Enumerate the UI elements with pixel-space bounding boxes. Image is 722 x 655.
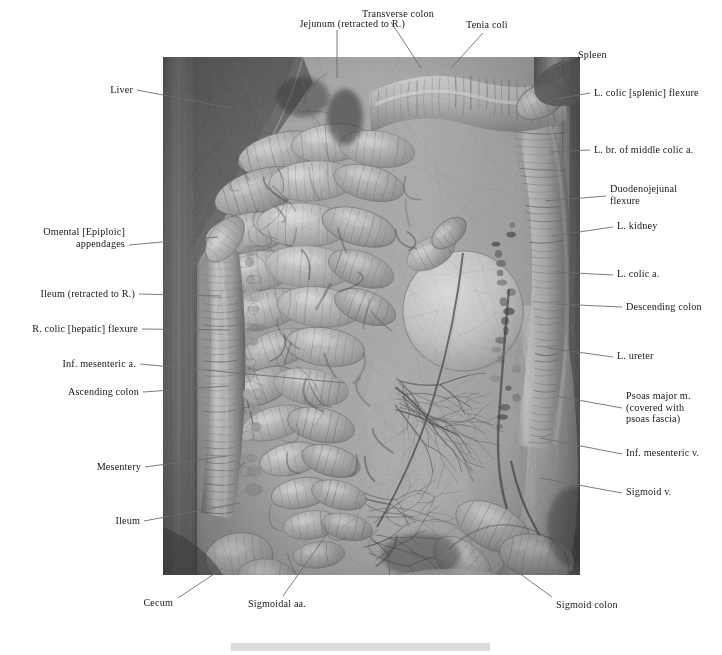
anatomical-photograph bbox=[163, 57, 580, 575]
label-l-colic-splenic-flexure: L. colic [splenic] flexure bbox=[594, 87, 722, 99]
footer-bar bbox=[231, 643, 490, 651]
label-l-br-middle-colic-a: L. br. of middle colic a. bbox=[594, 144, 722, 156]
label-transverse-colon: Transverse colon bbox=[362, 8, 482, 20]
label-inf-mesenteric-a: Inf. mesenteric a. bbox=[36, 358, 136, 370]
label-duodenojejunal-flexure: Duodenojejunal flexure bbox=[610, 183, 720, 206]
figure-canvas: Jejunum (retracted to R.)Transverse colo… bbox=[0, 0, 722, 655]
label-descending-colon: Descending colon bbox=[626, 301, 722, 313]
label-jejunum: Jejunum (retracted to R.) bbox=[237, 18, 405, 30]
label-r-colic-hepatic-flexure: R. colic [hepatic] flexure bbox=[10, 323, 138, 335]
label-cecum: Cecum bbox=[108, 597, 173, 609]
label-mesentery: Mesentery bbox=[66, 461, 141, 473]
label-sigmoid-v: Sigmoid v. bbox=[626, 486, 716, 498]
label-ileum-retracted: Ileum (retracted to R.) bbox=[15, 288, 135, 300]
label-ascending-colon: Ascending colon bbox=[44, 386, 139, 398]
label-psoas-major: Psoas major m. (covered with psoas fasci… bbox=[626, 390, 722, 425]
label-sigmoidal-aa: Sigmoidal aa. bbox=[248, 598, 343, 610]
label-l-colic-a: L. colic a. bbox=[617, 268, 707, 280]
label-sigmoid-colon: Sigmoid colon bbox=[556, 599, 656, 611]
label-spleen: Spleen bbox=[578, 49, 648, 61]
label-omental-appendages: Omental [Epiploic] appendages bbox=[20, 226, 125, 249]
label-l-ureter: L. ureter bbox=[617, 350, 707, 362]
label-inf-mesenteric-v: Inf. mesenteric v. bbox=[626, 447, 722, 459]
label-ileum: Ileum bbox=[80, 515, 140, 527]
label-tenia-coli: Tenia coli bbox=[466, 19, 546, 31]
label-l-kidney: L. kidney bbox=[617, 220, 707, 232]
label-liver: Liver bbox=[63, 84, 133, 96]
